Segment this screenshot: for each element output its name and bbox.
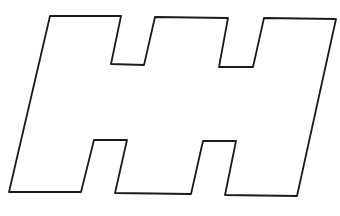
diagram-canvas bbox=[0, 0, 340, 216]
hh-shape-figure bbox=[0, 0, 340, 216]
hh-outline-polygon bbox=[9, 16, 336, 196]
